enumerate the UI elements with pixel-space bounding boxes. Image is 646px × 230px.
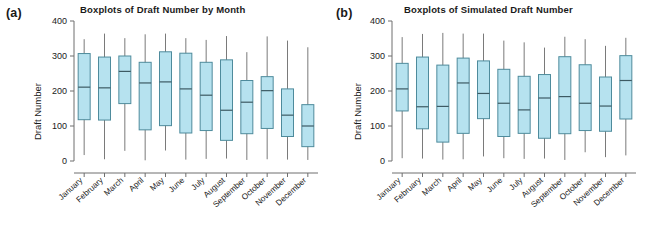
- boxplot-march: [437, 33, 449, 160]
- caption-fragment: [4, 219, 234, 228]
- panel-b: (b) Boxplots of Simulated Draft Number D…: [330, 0, 646, 230]
- boxplot-october: [261, 36, 273, 159]
- box-rect: [99, 57, 111, 120]
- boxplot-june: [180, 38, 192, 159]
- y-tick-label: 200: [370, 86, 385, 96]
- box-rect: [620, 56, 632, 119]
- box-rect: [518, 76, 530, 133]
- boxplot-december: [302, 47, 314, 160]
- boxplot-january: [78, 39, 90, 155]
- x-tick-label: May: [148, 175, 166, 193]
- figure-boxplot-pair: (a) Boxplots of Draft Number by Month Dr…: [0, 0, 646, 230]
- x-tick-label: June: [485, 176, 505, 195]
- boxplot-october: [579, 39, 591, 152]
- box-rect: [600, 77, 612, 131]
- boxplot-june: [498, 41, 510, 159]
- y-tick-label: 400: [52, 16, 67, 26]
- boxplot-november: [282, 41, 294, 160]
- boxplot-march: [119, 38, 131, 151]
- boxplot-july: [518, 42, 530, 159]
- y-tick-label: 100: [52, 121, 67, 131]
- box-rect: [261, 77, 273, 129]
- x-tick-label: March: [420, 176, 443, 198]
- box-rect: [457, 58, 469, 133]
- box-rect: [478, 61, 490, 119]
- boxplot-august: [221, 36, 233, 159]
- box-rect: [221, 60, 233, 141]
- box-rect: [241, 81, 253, 134]
- box-rect: [437, 65, 449, 142]
- y-tick-label: 0: [380, 156, 385, 166]
- box-rect: [139, 62, 151, 130]
- box-rect: [396, 63, 408, 111]
- box-rect: [160, 52, 172, 126]
- box-rect: [180, 53, 192, 133]
- boxplot-august: [539, 48, 551, 159]
- box-rect: [119, 56, 131, 104]
- box-rect: [579, 65, 591, 131]
- boxplot-september: [241, 52, 253, 160]
- panel-b-plot: 0100200300400JanuaryFebruaryMarchAprilMa…: [330, 0, 646, 230]
- boxplot-april: [457, 34, 469, 160]
- y-tick-label: 300: [52, 51, 67, 61]
- boxplot-february: [417, 34, 429, 159]
- x-tick-label: June: [167, 176, 187, 195]
- panel-a: (a) Boxplots of Draft Number by Month Dr…: [0, 0, 330, 230]
- x-tick-label: May: [466, 175, 484, 193]
- y-tick-label: 100: [370, 121, 385, 131]
- x-tick-label: March: [102, 176, 125, 198]
- x-tick-label: April: [127, 176, 145, 194]
- boxplot-february: [99, 34, 111, 160]
- box-rect: [282, 89, 294, 137]
- boxplot-january: [396, 37, 408, 158]
- y-tick-label: 0: [62, 156, 67, 166]
- boxplot-september: [559, 37, 571, 160]
- boxplot-may: [160, 34, 172, 151]
- y-tick-label: 200: [52, 86, 67, 96]
- boxplot-november: [600, 46, 612, 157]
- boxplot-july: [200, 40, 212, 159]
- box-rect: [200, 62, 212, 130]
- boxplot-december: [620, 38, 632, 156]
- box-rect: [539, 75, 551, 139]
- y-tick-label: 400: [370, 16, 385, 26]
- y-tick-label: 300: [370, 51, 385, 61]
- x-tick-label: April: [445, 176, 463, 194]
- panel-a-plot: 0100200300400JanuaryFebruaryMarchAprilMa…: [0, 0, 330, 230]
- box-rect: [417, 57, 429, 129]
- boxplot-april: [139, 34, 151, 160]
- box-rect: [559, 57, 571, 134]
- boxplot-may: [478, 34, 490, 157]
